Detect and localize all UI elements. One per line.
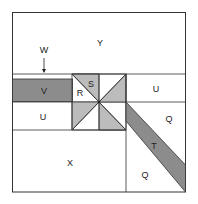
label-r: R xyxy=(77,88,84,98)
label-x: X xyxy=(67,158,73,168)
label-u-left: U xyxy=(40,112,47,122)
label-u-right: U xyxy=(153,84,160,94)
label-q-lower: Q xyxy=(141,170,148,180)
quilt-block-diagram: Y W V R S U U Q T X Q xyxy=(0,0,198,204)
label-q-upper: Q xyxy=(165,114,172,124)
label-t: T xyxy=(151,141,157,151)
label-w: W xyxy=(40,45,49,55)
label-s: S xyxy=(88,79,94,89)
center-point xyxy=(98,101,101,104)
label-y: Y xyxy=(97,38,103,48)
label-v: V xyxy=(41,86,47,96)
